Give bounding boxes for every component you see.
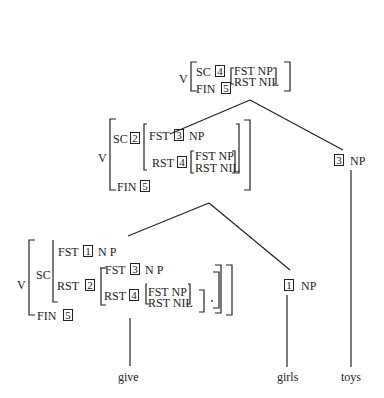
top-rst: RST NIL xyxy=(234,76,279,88)
top-fin-label: FIN xyxy=(196,83,215,95)
low-rst-rst-label: RST xyxy=(104,290,126,302)
top-category: V xyxy=(179,73,188,85)
mid-fst-tag: 3 xyxy=(174,129,184,141)
word-give: give xyxy=(118,371,139,383)
girls-np-category: NP xyxy=(301,280,316,292)
word-toys: toys xyxy=(341,371,361,383)
low-inner-rst: RST NIL xyxy=(148,297,193,309)
mid-sc-tag: 2 xyxy=(130,132,140,144)
mid-rst-tag: 4 xyxy=(177,156,187,168)
low-fin-label: FIN xyxy=(37,310,56,322)
mid-inner-rst: RST NIL xyxy=(195,162,240,174)
mid-fst-label: FST xyxy=(149,130,170,142)
low-fin-tag: 5 xyxy=(63,309,73,321)
toys-np-category: NP xyxy=(350,155,365,167)
low-rst-fst-tag: 3 xyxy=(130,263,140,275)
low-rst-label: RST xyxy=(57,280,79,292)
low-rst-tag: 2 xyxy=(85,279,95,291)
word-girls: girls xyxy=(277,371,298,383)
mid-sc-label: SC xyxy=(113,133,128,145)
girls-np-tag: 1 xyxy=(284,279,294,291)
mid-category: V xyxy=(98,152,107,164)
hpsg-tree-diagram: V SC 4 FST NP RST NIL FIN 5 V SC 2 FST 3… xyxy=(0,0,384,398)
top-sc-label: SC xyxy=(196,66,211,78)
toys-np-tag: 3 xyxy=(334,154,344,166)
mid-fst-value: NP xyxy=(189,130,204,142)
low-fst-label: FST xyxy=(58,246,79,258)
low-category: V xyxy=(17,279,26,291)
low-rst-rst-tag: 4 xyxy=(129,289,139,301)
top-sc-tag: 4 xyxy=(215,65,225,77)
mid-fin-tag: 5 xyxy=(140,180,150,192)
mid-fin-label: FIN xyxy=(117,181,136,193)
low-rst-fst-value: N P xyxy=(145,264,163,276)
low-sc-label: SC xyxy=(36,269,51,281)
top-fin-tag: 5 xyxy=(221,82,231,94)
tree-lines xyxy=(0,0,384,398)
mid-rst-label: RST xyxy=(152,157,174,169)
low-fst-tag: 1 xyxy=(83,245,93,257)
low-rst-fst-label: FST xyxy=(105,264,126,276)
low-fst-value: N P xyxy=(98,246,116,258)
